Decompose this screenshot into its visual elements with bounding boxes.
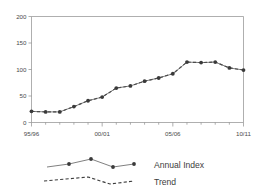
data-point-marker bbox=[30, 109, 34, 113]
legend-item-annual-index: Annual Index bbox=[47, 157, 205, 170]
data-point-marker bbox=[114, 86, 118, 90]
legend-dashed-line-swatch bbox=[44, 177, 134, 184]
legend-label-annual-index: Annual Index bbox=[154, 160, 205, 170]
x-axis-labels: 95/9600/0105/0610/11 bbox=[24, 130, 252, 137]
data-point-marker bbox=[72, 105, 76, 109]
x-tick-label: 00/01 bbox=[94, 130, 110, 137]
data-point-marker bbox=[86, 99, 90, 103]
data-point-marker bbox=[157, 76, 161, 80]
y-tick-label: 50 bbox=[20, 92, 27, 99]
legend-point-marker bbox=[132, 162, 136, 166]
chart-container: 050100150200 95/9600/0105/0610/11 Annual… bbox=[0, 0, 263, 191]
series-annual-index-markers bbox=[30, 60, 246, 114]
y-tick-label: 100 bbox=[16, 66, 27, 73]
x-tick-label: 05/06 bbox=[165, 130, 181, 137]
data-point-marker bbox=[227, 66, 231, 70]
data-point-marker bbox=[185, 60, 189, 64]
legend-label-trend: Trend bbox=[154, 177, 176, 187]
chart-legend: Annual Index Trend bbox=[44, 157, 205, 187]
data-point-marker bbox=[242, 68, 246, 72]
y-tick-label: 150 bbox=[16, 39, 27, 46]
data-point-marker bbox=[44, 110, 48, 114]
axis-frame bbox=[32, 17, 244, 123]
x-axis-ticks bbox=[32, 123, 244, 127]
line-chart: 050100150200 95/9600/0105/0610/11 Annual… bbox=[0, 0, 263, 191]
legend-point-marker bbox=[89, 157, 93, 161]
data-point-marker bbox=[143, 79, 147, 83]
x-tick-label: 10/11 bbox=[236, 130, 252, 137]
series-trend-line bbox=[32, 62, 244, 112]
plot-axes bbox=[32, 17, 244, 123]
data-point-marker bbox=[213, 60, 217, 64]
series-annual-index-line bbox=[32, 62, 244, 112]
legend-point-marker bbox=[111, 165, 115, 169]
data-point-marker bbox=[199, 61, 203, 65]
y-axis: 050100150200 bbox=[16, 13, 31, 126]
y-tick-label: 200 bbox=[16, 13, 27, 20]
data-point-marker bbox=[100, 95, 104, 99]
data-point-marker bbox=[129, 84, 133, 88]
x-tick-label: 95/96 bbox=[24, 130, 40, 137]
y-tick-label: 0 bbox=[23, 119, 27, 126]
data-point-marker bbox=[58, 110, 62, 114]
data-point-marker bbox=[171, 72, 175, 76]
legend-item-trend: Trend bbox=[44, 177, 176, 187]
legend-point-marker bbox=[67, 162, 71, 166]
